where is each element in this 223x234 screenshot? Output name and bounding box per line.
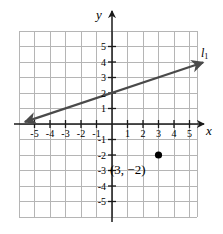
y-tick-label--3: -3 <box>94 166 106 176</box>
graph-canvas <box>0 0 223 234</box>
plotted-point <box>155 151 162 158</box>
y-tick-label--2: -2 <box>94 151 106 161</box>
coordinate-plane-figure: -5 -4 -3 -2 -1 1 2 3 4 5 5 4 3 2 1 -1 -2… <box>0 0 223 234</box>
x-tick-label-1: 1 <box>124 129 132 139</box>
y-tick-label-1: 1 <box>98 104 106 114</box>
series-line-l1 <box>25 63 203 122</box>
x-axis-label: x <box>206 124 212 137</box>
x-tick-label--2: -2 <box>75 129 87 139</box>
point-coordinate-label: (3, −2) <box>110 163 146 176</box>
x-tick-label-3: 3 <box>155 129 163 139</box>
x-tick-label--5: -5 <box>29 129 41 139</box>
line-label-l1: l1 <box>201 47 208 61</box>
y-axis-label: y <box>96 8 102 21</box>
y-tick-label-3: 3 <box>98 73 106 83</box>
y-tick-label-2: 2 <box>98 89 106 99</box>
y-tick-label--4: -4 <box>94 182 106 192</box>
x-tick-label-2: 2 <box>139 129 147 139</box>
x-tick-label-4: 4 <box>170 129 178 139</box>
x-tick-label-5: 5 <box>186 129 194 139</box>
y-tick-label-5: 5 <box>98 42 106 52</box>
y-tick-label--5: -5 <box>94 197 106 207</box>
line-label-subscript: 1 <box>204 52 208 61</box>
x-tick-label--3: -3 <box>60 129 72 139</box>
y-tick-label-4: 4 <box>98 58 106 68</box>
y-tick-label--1: -1 <box>94 135 106 145</box>
x-tick-label--4: -4 <box>44 129 56 139</box>
